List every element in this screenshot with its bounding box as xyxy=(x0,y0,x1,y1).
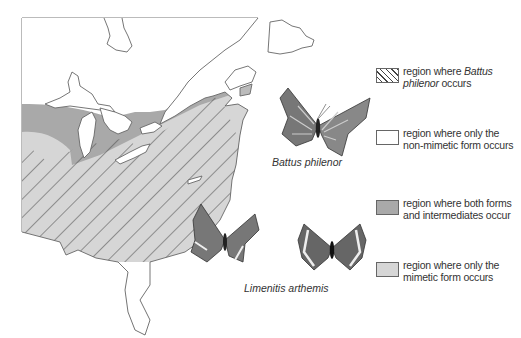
legend-swatch-light-gray xyxy=(376,262,399,277)
newfoundland xyxy=(268,20,314,54)
legend-item-battus: region where Battus philenor occurs xyxy=(376,66,493,89)
legend-swatch-white xyxy=(376,130,399,145)
legend-swatch-hatched xyxy=(376,68,399,83)
butterfly-battus-philenor xyxy=(280,88,370,156)
butterfly-limenitis-mimetic xyxy=(298,224,366,270)
butterfly-limenitis-nonmimetic xyxy=(191,204,259,262)
legend-item-both-forms: region where both forms and intermediate… xyxy=(376,198,512,221)
legend-label: region where Battus philenor occurs xyxy=(403,66,493,89)
legend-label: region where both forms and intermediate… xyxy=(403,198,512,221)
caption-limenitis-arthemis: Limenitis arthemis xyxy=(244,282,329,294)
legend-label: region where only the non-mimetic form o… xyxy=(403,128,513,151)
legend-label: region where only the mimetic form occur… xyxy=(403,260,499,283)
legend-item-non-mimetic: region where only the non-mimetic form o… xyxy=(376,128,513,151)
legend-swatch-dark-gray xyxy=(376,200,399,215)
caption-battus-philenor: Battus philenor xyxy=(272,156,342,168)
legend-item-mimetic: region where only the mimetic form occur… xyxy=(376,260,499,283)
